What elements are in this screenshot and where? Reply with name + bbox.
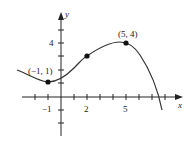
function-curve	[17, 42, 162, 110]
point-local-max	[123, 40, 128, 45]
function-graph: y x −1 2 5 4 (−1, 1) (5, 4)	[0, 0, 194, 143]
x-tick-label-neg1: −1	[42, 104, 52, 114]
x-tick-label-2: 2	[84, 104, 89, 114]
y-axis-label: y	[64, 9, 69, 19]
point-local-min	[45, 79, 50, 84]
x-tick-label-5: 5	[123, 104, 128, 114]
point-label-max: (5, 4)	[118, 29, 138, 39]
point-inflection	[84, 53, 89, 58]
y-axis	[58, 12, 64, 136]
y-tick-label-4: 4	[49, 38, 54, 48]
x-axis-label: x	[177, 100, 182, 110]
point-label-min: (−1, 1)	[28, 66, 53, 76]
y-axis-arrow-icon	[58, 12, 64, 20]
